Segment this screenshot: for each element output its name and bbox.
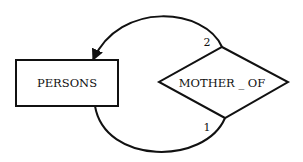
entity-label: PERSONS (37, 76, 97, 90)
er-diagram: PERSONS MOTHER _ OF 2 1 (0, 0, 303, 162)
role-label-2: 2 (204, 36, 211, 49)
entity-persons[interactable]: PERSONS (16, 60, 118, 106)
relationship-label: MOTHER _ OF (179, 76, 265, 90)
relationship-mother-of[interactable]: MOTHER _ OF (159, 47, 288, 118)
role-label-1: 1 (204, 121, 211, 134)
